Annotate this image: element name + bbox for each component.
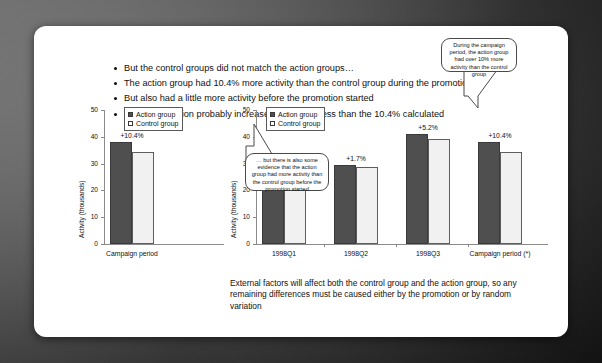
legend-swatch-action-icon	[270, 112, 275, 117]
legend-entry-action: Action group	[128, 110, 178, 119]
y-tick-label: 20	[82, 186, 98, 193]
y-tick	[101, 164, 104, 165]
bar-action-group	[478, 142, 500, 244]
bar-action-group	[406, 134, 428, 244]
y-tick	[253, 217, 256, 218]
slide-canvas: But the control groups did not match the…	[34, 26, 568, 337]
slide-frame: But the control groups did not match the…	[0, 0, 602, 363]
chart-right-x-axis	[256, 244, 548, 245]
chart-left: Activity (thousands) 01020304050 +10.4%C…	[72, 104, 232, 264]
x-category-label: Campaign period	[96, 250, 168, 257]
y-tick	[101, 190, 104, 191]
bar-control-group	[428, 139, 450, 244]
y-tick-label: 30	[82, 160, 98, 167]
footnote-text: External factors will affect both the co…	[230, 278, 540, 312]
bar-control-group	[356, 167, 378, 244]
bar-control-group	[500, 152, 522, 244]
chart-left-y-axis	[104, 110, 105, 244]
y-tick	[253, 110, 256, 111]
x-category-label: 1998Q3	[392, 250, 464, 257]
chart-left-legend: Action group Control group	[124, 107, 183, 131]
bar-data-label: +1.7%	[328, 155, 384, 162]
y-tick-label: 40	[82, 133, 98, 140]
bar-control-group	[132, 152, 154, 244]
y-tick-label: 10	[234, 213, 250, 220]
callout-before-promotion: … but there is also some evidence that t…	[245, 153, 329, 191]
legend-label-action: Action group	[136, 110, 175, 119]
legend-swatch-action-icon	[128, 112, 133, 117]
bar-data-label: +10.4%	[104, 132, 160, 139]
y-tick-label: 50	[234, 106, 250, 113]
x-tick	[324, 244, 325, 247]
x-tick	[468, 244, 469, 247]
y-tick-label: 0	[234, 240, 250, 247]
legend-label-action: Action group	[278, 110, 317, 119]
bar-action-group	[334, 165, 356, 244]
y-tick-label: 0	[82, 240, 98, 247]
x-category-label: Campaign period (*)	[464, 250, 536, 257]
legend-swatch-control-icon	[128, 121, 133, 126]
x-category-label: 1998Q2	[320, 250, 392, 257]
chart-left-x-axis	[104, 244, 224, 245]
y-tick	[253, 244, 256, 245]
y-tick-label: 50	[82, 106, 98, 113]
legend-entry-control: Control group	[128, 119, 178, 128]
y-tick-label: 10	[82, 213, 98, 220]
y-tick	[101, 110, 104, 111]
bar-data-label: +10.4%	[472, 132, 528, 139]
bar-data-label: +5.2%	[400, 124, 456, 131]
bar-action-group	[110, 142, 132, 244]
legend-label-control: Control group	[136, 119, 178, 128]
y-tick	[101, 217, 104, 218]
legend-entry-action: Action group	[270, 110, 320, 119]
callout-campaign-period: During the campaign period, the action g…	[441, 38, 517, 72]
x-tick	[396, 244, 397, 247]
y-tick	[101, 244, 104, 245]
x-category-label: 1998Q1	[248, 250, 320, 257]
